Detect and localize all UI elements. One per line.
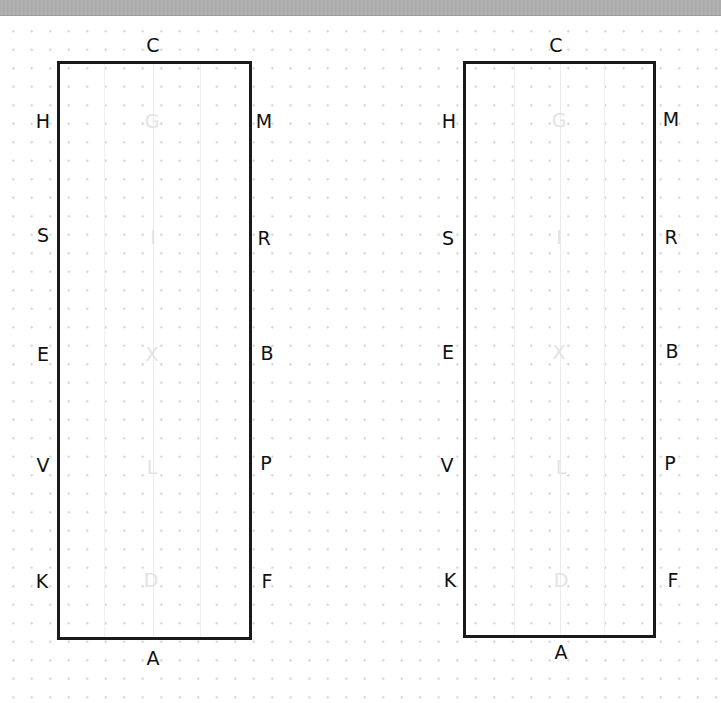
quarter-line [104, 64, 105, 637]
letter-right-1: M [256, 112, 272, 131]
letter-left-5: K [444, 571, 456, 590]
letter-bottom: A [555, 643, 568, 662]
letter-center-2: I [150, 228, 156, 247]
letter-left-3: E [37, 345, 49, 364]
letter-left-2: S [442, 229, 454, 248]
letter-center-3: X [145, 345, 158, 364]
letter-center-2: I [556, 228, 562, 247]
letter-center-4: L [147, 458, 158, 477]
letter-left-2: S [37, 226, 49, 245]
letter-left-5: K [36, 572, 48, 591]
letter-center-4: L [556, 458, 567, 477]
letter-right-2: R [257, 229, 270, 248]
letter-left-3: E [442, 343, 454, 362]
letter-center-5: D [144, 571, 159, 590]
letter-right-4: P [260, 454, 271, 473]
letter-bottom: A [147, 649, 160, 668]
quarter-line [514, 64, 515, 635]
letter-right-5: F [262, 572, 273, 591]
letter-left-4: V [441, 456, 454, 475]
top-bar [0, 0, 721, 16]
letter-right-2: R [664, 228, 677, 247]
letter-center-1: G [552, 111, 567, 130]
letter-right-4: P [664, 454, 675, 473]
letter-right-5: F [668, 571, 679, 590]
letter-left-1: H [36, 112, 50, 131]
letter-right-3: B [665, 342, 678, 361]
letter-top: C [146, 36, 159, 55]
letter-right-1: M [663, 110, 679, 129]
letter-left-1: H [442, 112, 456, 131]
letter-center-5: D [554, 571, 569, 590]
quarter-line [200, 64, 201, 637]
letter-top: C [549, 36, 562, 55]
quarter-line [604, 64, 605, 635]
letter-left-4: V [37, 456, 50, 475]
letter-center-3: X [552, 343, 565, 362]
letter-right-3: B [260, 344, 273, 363]
letter-center-1: G [145, 112, 160, 131]
